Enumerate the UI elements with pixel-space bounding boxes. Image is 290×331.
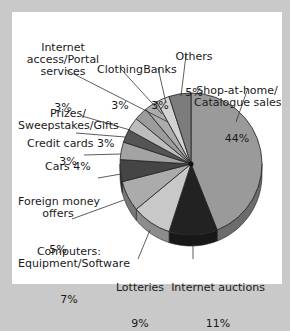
leader-line (138, 230, 150, 259)
label-shop-at-home-name: Shop-at-home/ Catalogue sales (194, 85, 280, 109)
label-lotteries: Lotteries 9% (112, 258, 168, 331)
label-computers-pct: 7% (18, 294, 120, 306)
label-foreign-money-name: Foreign money offers (18, 196, 98, 220)
label-cars: Cars 4% (38, 149, 91, 173)
label-internet-auctions: Internet auctions 11% (168, 258, 268, 331)
label-computers-name: Computers: Equipment/Software (18, 246, 120, 270)
label-credit-cards: Credit cards 3% (20, 126, 114, 150)
label-lotteries-pct: 9% (112, 318, 168, 330)
label-lotteries-name: Lotteries (112, 282, 168, 294)
label-internet-auctions-name: Internet auctions (168, 282, 268, 294)
pie-center-dot (189, 162, 194, 167)
label-shop-at-home: Shop-at-home/ Catalogue sales 44% (194, 61, 280, 157)
label-internet-auctions-pct: 11% (168, 318, 268, 330)
label-computers: Computers: Equipment/Software 7% (18, 222, 120, 318)
label-shop-at-home-pct: 44% (194, 133, 280, 145)
